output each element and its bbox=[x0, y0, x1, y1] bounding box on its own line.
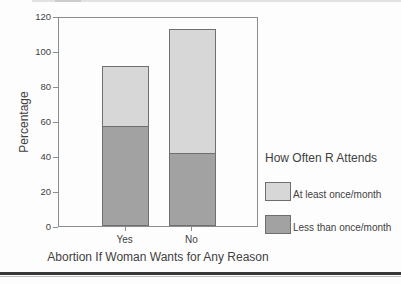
x-axis-tick-mark bbox=[191, 227, 192, 231]
bars-layer bbox=[59, 18, 257, 226]
bar-segment-no-at-least-once-month bbox=[169, 29, 216, 153]
bar-segment-no-less-than-once-month bbox=[169, 153, 216, 227]
legend: How Often R Attends At least once/monthL… bbox=[265, 151, 399, 234]
legend-entry-label: At least once/month bbox=[293, 189, 381, 200]
bottom-rule-shadow bbox=[0, 276, 401, 277]
y-axis-tick-mark bbox=[53, 52, 58, 53]
legend-entry-label: Less than once/month bbox=[293, 222, 391, 233]
y-axis-tick-label: 100 bbox=[21, 46, 51, 58]
y-axis-tick-mark bbox=[53, 122, 58, 123]
legend-title: How Often R Attends bbox=[265, 151, 399, 165]
y-axis-tick-mark bbox=[53, 87, 58, 88]
scan-artifact-smudge bbox=[55, 0, 81, 2]
y-axis-tick-label: 60 bbox=[21, 116, 51, 128]
x-axis-tick-mark bbox=[125, 227, 126, 231]
bottom-rule bbox=[0, 272, 401, 275]
y-axis-tick-mark bbox=[53, 227, 58, 228]
y-axis-tick-mark bbox=[53, 192, 58, 193]
y-axis-tick-label: 40 bbox=[21, 151, 51, 163]
bar-segment-yes-less-than-once-month bbox=[102, 126, 149, 226]
y-axis-tick-label: 0 bbox=[21, 221, 51, 233]
x-axis-category-label: Yes bbox=[103, 234, 147, 245]
legend-swatch bbox=[265, 215, 291, 234]
y-axis-tick-label: 20 bbox=[21, 186, 51, 198]
legend-swatch bbox=[265, 182, 291, 201]
legend-entries: At least once/monthLess than once/month bbox=[265, 182, 399, 234]
y-axis-tick-label: 120 bbox=[21, 11, 51, 23]
y-axis-tick-mark bbox=[53, 157, 58, 158]
bar-segment-yes-at-least-once-month bbox=[102, 66, 149, 127]
figure: Percentage 020406080100120 YesNo Abortio… bbox=[0, 0, 401, 284]
scan-artifact-line bbox=[32, 0, 401, 2]
x-axis-title: Abortion If Woman Wants for Any Reason bbox=[47, 250, 268, 264]
legend-entry: Less than once/month bbox=[265, 215, 399, 234]
y-axis-tick-label: 80 bbox=[21, 81, 51, 93]
y-axis-tick-mark bbox=[53, 17, 58, 18]
legend-entry: At least once/month bbox=[265, 182, 399, 201]
x-axis-category-label: No bbox=[169, 234, 213, 245]
plot-area bbox=[58, 17, 258, 227]
